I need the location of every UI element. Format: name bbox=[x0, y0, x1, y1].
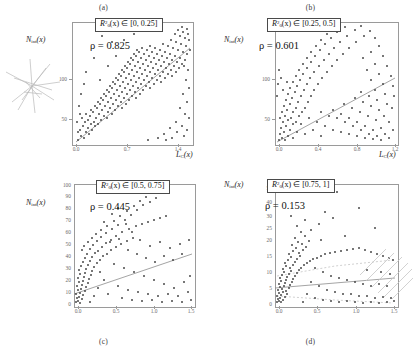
panel-d-ytick-2: 10 bbox=[259, 269, 272, 275]
panel-c-condition-box: R20(x) ∈ [0.5, 0.75] bbox=[96, 180, 170, 194]
panel-a-condition-box: R20(x) ∈ [0, 0.25] bbox=[95, 18, 163, 32]
panel-d-xtick-0: 0.0 bbox=[276, 308, 283, 314]
panel-c-ytick-5: 50 bbox=[58, 241, 71, 247]
panel-c-rho-label: ρ = 0.445 bbox=[90, 201, 130, 212]
panel-b: (b) Nint(x) LC(x) R20(x) ∈ [0.25, 0.5] ρ… bbox=[207, 0, 414, 174]
panel-c-ytick-8: 80 bbox=[58, 205, 71, 211]
panel-c-ytick-1: 10 bbox=[58, 289, 71, 295]
panel-c-ytick-2: 20 bbox=[58, 277, 71, 283]
panel-d-xtick-1: 0.5 bbox=[314, 308, 321, 314]
panel-a: (a) Nint(x) LC(x) R20(x) ∈ [0, 0.25] ρ =… bbox=[0, 0, 207, 174]
panel-a-xtick-0: 0.0 bbox=[73, 146, 80, 152]
panel-b-xtick-1: 0.4 bbox=[315, 146, 322, 152]
panel-d-condition-box: R20(x) ∈ [0.75, 1] bbox=[267, 179, 335, 193]
panel-d-ytick-5: 25 bbox=[259, 225, 272, 231]
panel-d-ytick-1: 5 bbox=[259, 285, 272, 291]
panel-b-condition-box: R20(x) ∈ [0.25, 0.5] bbox=[267, 18, 341, 32]
panel-b-xtick-3: 1.2 bbox=[392, 146, 399, 152]
panel-b-ytick-0: 50 bbox=[259, 116, 270, 122]
panel-d-ytick-3: 15 bbox=[259, 253, 272, 259]
panel-a-rho-label: ρ = 0.825 bbox=[90, 40, 130, 51]
panel-c-ytick-3: 30 bbox=[58, 265, 71, 271]
panel-a-ytick-0: 50 bbox=[56, 116, 67, 122]
panel-c-xtick-3: 1.5 bbox=[188, 308, 195, 314]
panel-d-scatter bbox=[207, 174, 414, 348]
panel-d-xtick-3: 1.5 bbox=[391, 308, 398, 314]
panel-c-ytick-0: 0 bbox=[58, 301, 71, 307]
panel-d-ytick-0: 0 bbox=[259, 301, 272, 307]
panel-d-ytick-6: 30 bbox=[259, 213, 272, 219]
panel-b-ytick-1: 100 bbox=[255, 76, 270, 82]
panel-d-ytick-4: 20 bbox=[259, 237, 272, 243]
panel-c-xtick-2: 1.0 bbox=[151, 308, 158, 314]
panel-c-xtick-1: 0.5 bbox=[113, 308, 120, 314]
figure-scatter-grid: (a) Nint(x) LC(x) R20(x) ∈ [0, 0.25] ρ =… bbox=[0, 0, 414, 348]
panel-a-xtick-1: 0.7 bbox=[124, 146, 131, 152]
panel-a-ytick-1: 100 bbox=[52, 76, 67, 82]
panel-c-ytick-7: 70 bbox=[58, 217, 71, 223]
panel-d-xtick-2: 1.0 bbox=[353, 308, 360, 314]
panel-c-ytick-6: 60 bbox=[58, 229, 71, 235]
panel-c-xtick-0: 0.0 bbox=[75, 308, 82, 314]
panel-c-ytick-9: 90 bbox=[58, 193, 71, 199]
panel-c-ytick-4: 40 bbox=[58, 253, 71, 259]
panel-b-rho-label: ρ = 0.601 bbox=[259, 40, 299, 51]
panel-b-xtick-0: 0.0 bbox=[276, 146, 283, 152]
panel-d-rho-label: ρ = 0.153 bbox=[265, 200, 305, 211]
panel-d: (d) Nint(x) LC(x) R20(x) ∈ [0.75, 1] ρ =… bbox=[207, 174, 414, 348]
panel-c-ytick-10: 100 bbox=[56, 182, 71, 188]
panel-a-xtick-2: 1.4 bbox=[175, 146, 182, 152]
panel-b-xtick-2: 0.8 bbox=[354, 146, 361, 152]
panel-c: (c) Nint(x) LC(x) R20(x) ∈ [0.5, 0.75] ρ… bbox=[0, 174, 207, 348]
